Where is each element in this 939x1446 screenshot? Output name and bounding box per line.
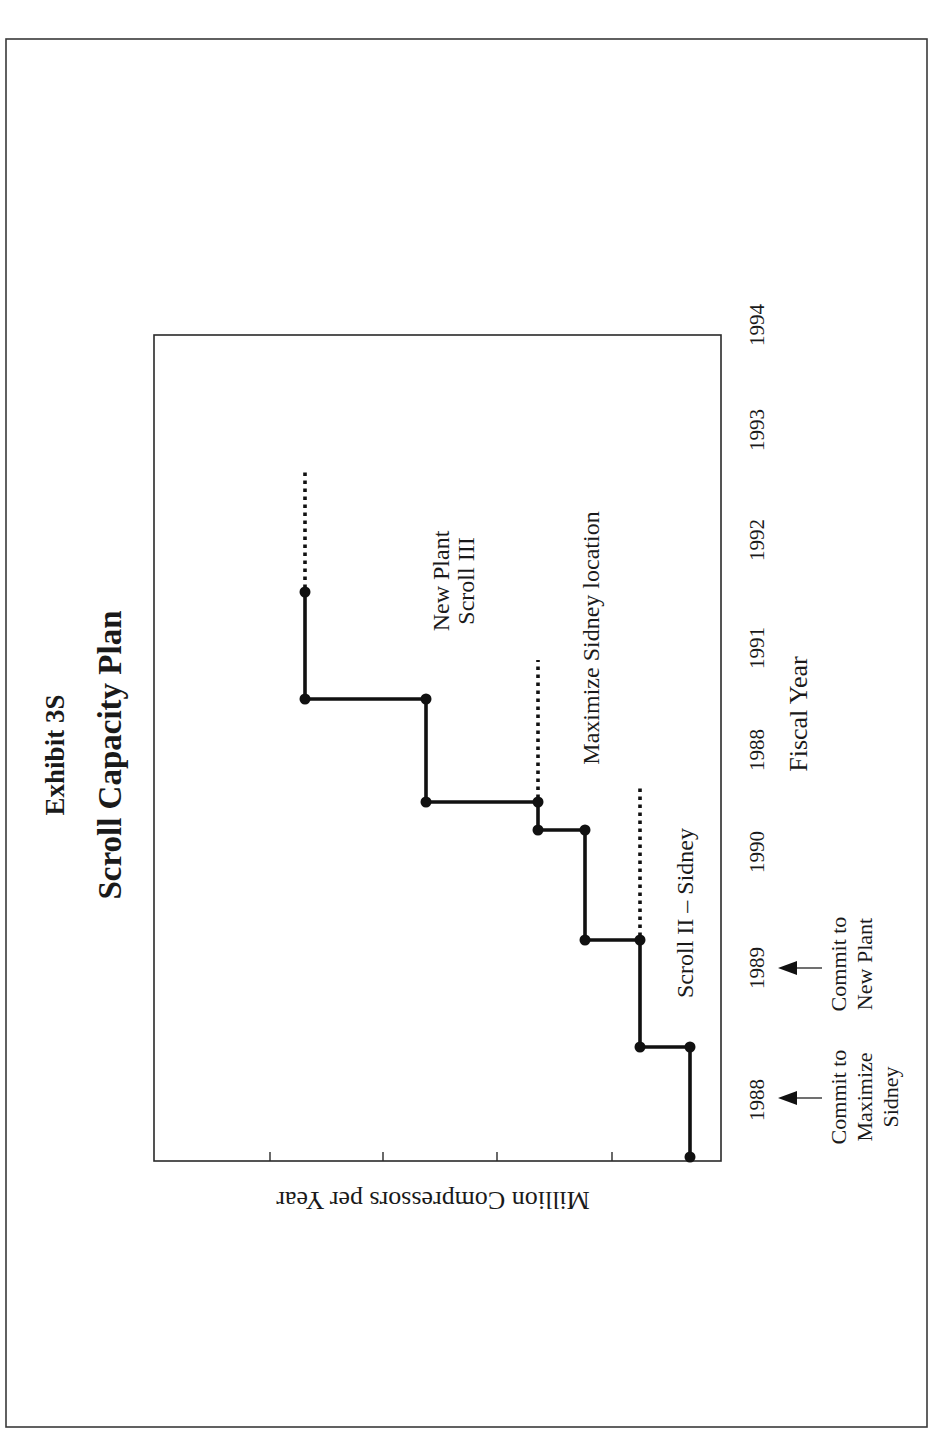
x-axis-label: Fiscal Year <box>784 656 813 772</box>
plot-area <box>154 335 721 1161</box>
y-axis-ticks <box>270 1152 612 1161</box>
annotation-scroll-iii: Scroll III <box>453 537 479 624</box>
x-tick-label: 1991 <box>745 627 769 669</box>
commit-sidney-line3: Sidney <box>878 1066 903 1127</box>
data-point-markers <box>300 587 696 1163</box>
exhibit-page: Exhibit 3S Scroll Capacity Plan Million … <box>0 0 939 1446</box>
commit-sidney-line2: Maximize <box>852 1052 877 1141</box>
commit-plant-line2: New Plant <box>852 918 877 1010</box>
x-tick-label: 1990 <box>745 831 769 873</box>
capacity-step-line <box>305 592 690 1157</box>
commit-sidney-arrow <box>778 1091 822 1105</box>
x-tick-label: 1992 <box>745 519 769 561</box>
y-axis-label: Million Compressors per Year <box>276 1186 590 1215</box>
annotation-scroll-ii-sidney: Scroll II – Sidney <box>672 828 698 998</box>
x-axis-tick-labels: 1988 1989 1990 1988 1991 1992 1993 1994 <box>745 304 769 1122</box>
x-tick-label: 1988 <box>745 729 769 771</box>
x-tick-label: 1993 <box>745 409 769 451</box>
x-tick-label: 1989 <box>745 947 769 989</box>
annotation-maximize-sidney: Maximize Sidney location <box>578 511 604 764</box>
x-tick-label: 1988 <box>745 1079 769 1121</box>
x-tick-label: 1994 <box>745 304 769 347</box>
commit-sidney-line1: Commit to <box>826 1050 851 1145</box>
chart-title: Scroll Capacity Plan <box>92 610 128 899</box>
commit-new-plant-arrow <box>778 961 822 975</box>
commit-plant-line1: Commit to <box>826 917 851 1012</box>
annotation-new-plant: New Plant <box>428 530 454 631</box>
exhibit-label: Exhibit 3S <box>40 695 70 816</box>
